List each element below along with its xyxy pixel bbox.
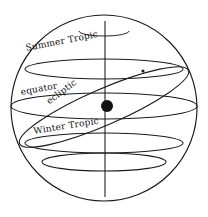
antarctic-circle bbox=[42, 153, 166, 171]
earth-center-dot bbox=[101, 100, 113, 112]
diagram-canvas bbox=[0, 0, 208, 217]
winter-tropic bbox=[25, 133, 183, 153]
celestial-sphere-diagram: Summer Tropic equator ecliptic Winter Tr… bbox=[0, 0, 208, 217]
ecliptic-node-marker bbox=[141, 69, 144, 72]
